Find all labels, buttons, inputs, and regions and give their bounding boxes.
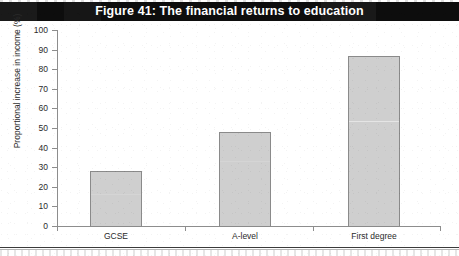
y-tick <box>52 50 58 51</box>
x-tick <box>185 226 186 231</box>
y-axis-line <box>57 31 58 227</box>
x-category-label-first-degree: First degree <box>344 231 404 241</box>
y-tick <box>52 30 58 31</box>
y-tick <box>52 69 58 70</box>
y-tick-label: 100 <box>20 25 48 35</box>
x-tick <box>440 226 441 231</box>
y-tick <box>52 167 58 168</box>
y-tick <box>52 187 58 188</box>
y-tick-label: 20 <box>20 182 48 192</box>
y-tick-label: 0 <box>20 221 48 231</box>
x-category-label-gcse: GCSE <box>86 231 146 241</box>
y-tick-label: 60 <box>20 103 48 113</box>
y-tick <box>52 108 58 109</box>
page-title: Figure 41: The financial returns to educ… <box>0 2 459 21</box>
y-tick-label: 70 <box>20 84 48 94</box>
x-category-label-a-level: A-level <box>215 231 275 241</box>
bar-chart: Proportional increase in income (%) 100 … <box>0 21 459 247</box>
y-tick <box>52 89 58 90</box>
y-tick <box>52 148 58 149</box>
y-tick-label: 40 <box>20 143 48 153</box>
y-tick-label: 80 <box>20 64 48 74</box>
figure-title-banner: Figure 41: The financial returns to educ… <box>0 2 459 21</box>
y-tick <box>52 206 58 207</box>
y-tick-label: 50 <box>20 123 48 133</box>
y-tick-label: 30 <box>20 162 48 172</box>
footer-scan-artifact <box>0 250 459 256</box>
x-tick <box>57 226 58 231</box>
y-tick <box>52 128 58 129</box>
y-tick-label: 10 <box>20 201 48 211</box>
bar-first-degree <box>348 56 400 227</box>
bar-gcse <box>90 171 142 227</box>
y-tick-label: 90 <box>20 45 48 55</box>
footer-divider <box>0 247 459 248</box>
x-tick <box>313 226 314 231</box>
bar-a-level <box>219 132 271 227</box>
